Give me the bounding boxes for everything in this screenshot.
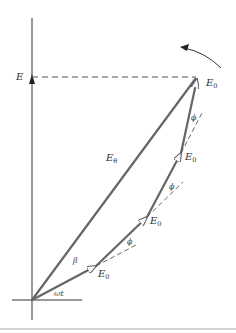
beta-label: β [72, 256, 78, 265]
axis-label-E: E [15, 71, 24, 82]
phasor-label-4: E0 [205, 77, 217, 90]
phi-extension-2 [147, 182, 183, 217]
rotation-arrow [184, 48, 221, 68]
phasor-label-3: E0 [184, 151, 196, 164]
resultant-label: Eθ [105, 152, 117, 165]
rotation-arrowhead-icon [180, 44, 189, 51]
phasor-2 [96, 217, 147, 266]
omega-t-label: ωt [54, 289, 65, 298]
phi-label-3: ϕ [191, 113, 197, 122]
phi-label-1: ϕ [127, 237, 133, 246]
phasor-1 [32, 266, 96, 300]
phasor-diagram: E Eθ β ωt E0 E0 E0 E0 ϕ ϕ ϕ [0, 0, 236, 333]
phasor-3 [147, 153, 181, 217]
axis-arrow-icon [29, 74, 35, 84]
phi-label-2: ϕ [169, 182, 175, 191]
phasor-label-1: E0 [97, 268, 109, 281]
phasor-label-2: E0 [149, 215, 161, 228]
